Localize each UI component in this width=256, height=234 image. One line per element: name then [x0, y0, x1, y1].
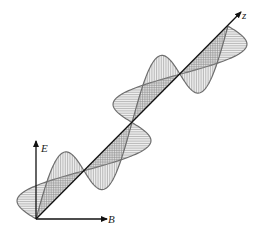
z-axis: [36, 12, 241, 219]
e-axis-label: E: [40, 142, 48, 154]
z-axis-label: z: [241, 9, 247, 21]
b-axis-label: B: [108, 213, 115, 225]
em-wave-diagram: E B z: [0, 0, 256, 234]
